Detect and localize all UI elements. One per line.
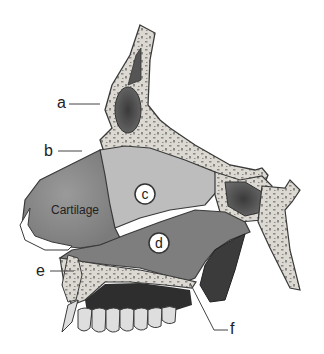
label-f: f — [230, 320, 235, 337]
pterygoid-process — [258, 180, 300, 290]
label-b: b — [44, 142, 53, 159]
label-c-marker: c — [135, 184, 155, 204]
nasal-anatomy-diagram: c d Cartilage a b e f — [0, 0, 324, 354]
label-a: a — [57, 94, 66, 111]
label-d-marker: d — [149, 233, 169, 253]
svg-text:d: d — [155, 235, 163, 251]
frontal-sinus — [115, 87, 141, 133]
label-e: e — [36, 262, 45, 279]
svg-text:c: c — [142, 186, 149, 202]
cartilage-label: Cartilage — [51, 203, 99, 217]
